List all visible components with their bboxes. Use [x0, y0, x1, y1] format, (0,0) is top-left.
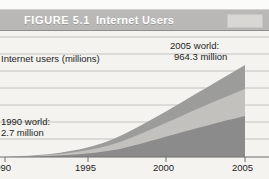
callout-1990-line1: 1990 world: [1, 116, 50, 127]
callout-1990-line2: 2.7 million [1, 127, 50, 138]
x-axis-labels: 1990 1995 2000 2005 [0, 162, 269, 178]
figure-title: Internet Users [96, 14, 174, 26]
x-tick-label-1995: 1995 [75, 162, 96, 173]
x-tick-label-1990: 1990 [0, 162, 11, 173]
callout-2005-line1: 2005 world: [170, 40, 227, 51]
figure-header-content: FIGURE 5.1 Internet Users [0, 10, 269, 30]
top-margin [0, 0, 269, 9]
figure-header-bar: FIGURE 5.1 Internet Users [0, 9, 269, 31]
callout-2005-line2: 964.3 million [170, 51, 227, 62]
callout-2005: 2005 world: 964.3 million [170, 40, 227, 62]
x-tick-label-2000: 2000 [153, 162, 174, 173]
header-swatch-icon [227, 14, 263, 28]
x-tick-label-2005: 2005 [232, 162, 253, 173]
figure-number-label: FIGURE 5.1 [24, 14, 90, 26]
callout-1990: 1990 world: 2.7 million [1, 116, 50, 138]
chart-plot-area: Internet users (millions) 2005 world: 96… [0, 31, 269, 179]
figure-container: FIGURE 5.1 Internet Users [0, 0, 269, 179]
y-axis-title: Internet users (millions) [1, 53, 100, 64]
